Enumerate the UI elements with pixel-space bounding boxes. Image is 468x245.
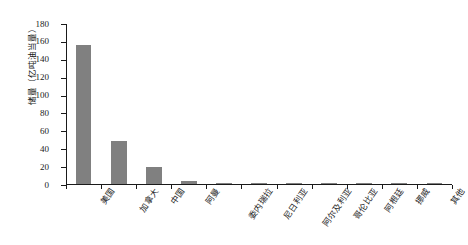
y-axis-line bbox=[66, 24, 67, 185]
bar bbox=[427, 183, 443, 184]
x-tick-label: 美国 bbox=[98, 186, 117, 206]
bar bbox=[356, 183, 372, 184]
x-tick-label: 委内瑞拉 bbox=[246, 186, 275, 221]
x-tick-label: 哥伦比亚 bbox=[352, 186, 381, 221]
bar bbox=[251, 183, 267, 184]
bar bbox=[181, 181, 197, 184]
x-tick-label: 阿曼 bbox=[203, 186, 222, 206]
x-tick-label: 阿尔及利亚 bbox=[320, 186, 354, 229]
y-tick-label: 0 bbox=[9, 181, 49, 190]
x-tick-label: 阿根廷 bbox=[383, 186, 407, 214]
x-axis-line bbox=[66, 184, 452, 185]
x-tick-label: 中国 bbox=[168, 186, 187, 206]
x-axis-labels: 美国加拿大中国阿曼委内瑞拉尼日利亚阿尔及利亚哥伦比亚阿根廷挪威其他 bbox=[66, 186, 452, 245]
bar bbox=[321, 183, 337, 184]
y-tick-label: 60 bbox=[9, 127, 49, 136]
y-tick-label: 120 bbox=[9, 73, 49, 82]
bar bbox=[111, 141, 127, 184]
y-tick bbox=[61, 60, 66, 61]
y-tick bbox=[61, 78, 66, 79]
y-tick bbox=[61, 149, 66, 150]
y-tick-label: 40 bbox=[9, 145, 49, 154]
bar bbox=[76, 45, 92, 184]
y-tick bbox=[61, 96, 66, 97]
y-tick-label: 20 bbox=[9, 163, 49, 172]
plot-area: 020406080100120140160180 bbox=[66, 24, 452, 185]
x-tick-label: 其他 bbox=[449, 186, 468, 206]
y-tick-label: 180 bbox=[9, 20, 49, 29]
x-tick bbox=[452, 185, 453, 189]
bar bbox=[146, 167, 162, 184]
x-tick-label: 尼日利亚 bbox=[281, 186, 310, 221]
y-tick bbox=[61, 24, 66, 25]
y-tick-label: 160 bbox=[9, 37, 49, 46]
x-tick-label: 挪威 bbox=[414, 186, 433, 206]
y-tick bbox=[61, 167, 66, 168]
bar bbox=[391, 183, 407, 184]
x-tick-label: 加拿大 bbox=[137, 186, 161, 214]
bar bbox=[216, 183, 232, 184]
y-tick-label: 140 bbox=[9, 55, 49, 64]
y-tick bbox=[61, 131, 66, 132]
y-tick-label: 80 bbox=[9, 109, 49, 118]
y-tick bbox=[61, 42, 66, 43]
y-tick-label: 100 bbox=[9, 91, 49, 100]
bar bbox=[286, 183, 302, 184]
y-tick bbox=[61, 113, 66, 114]
